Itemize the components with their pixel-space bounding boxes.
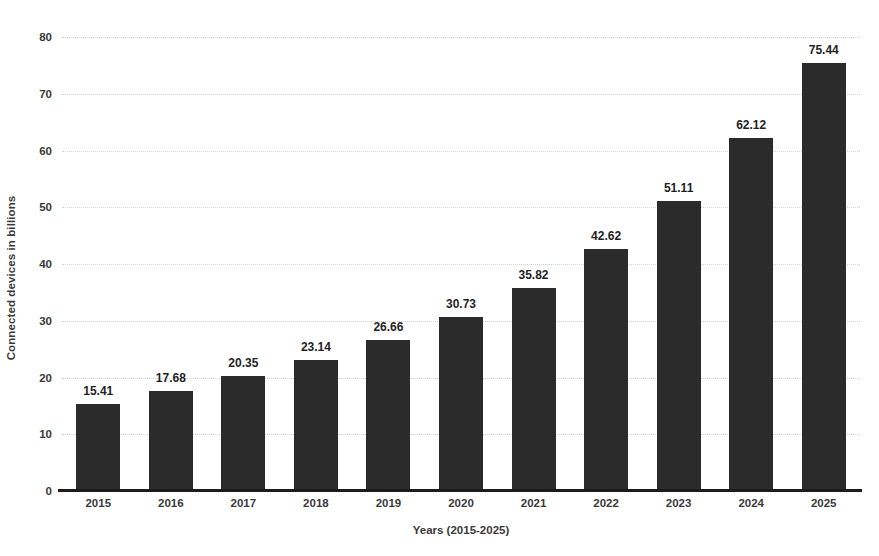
bar-group: 23.14 [294, 37, 338, 491]
bar-group: 42.62 [584, 37, 628, 491]
bar-group: 26.66 [366, 37, 410, 491]
y-axis-title: Connected devices in billions [0, 0, 22, 556]
bar-chart: Connected devices in billions 0102030405… [0, 0, 879, 556]
x-axis-title: Years (2015-2025) [62, 524, 860, 536]
bar[interactable] [76, 404, 120, 491]
bar-value-label: 15.41 [62, 384, 134, 398]
bar-value-label: 17.68 [135, 371, 207, 385]
bar-group: 17.68 [149, 37, 193, 491]
x-axis-tick-label: 2021 [498, 497, 570, 509]
x-axis-tick-label: 2020 [425, 497, 497, 509]
bar[interactable] [294, 360, 338, 491]
bar[interactable] [802, 63, 846, 491]
x-axis-tick-label: 2017 [207, 497, 279, 509]
bar-group: 51.11 [657, 37, 701, 491]
bar[interactable] [512, 288, 556, 491]
bar-value-label: 75.44 [788, 43, 860, 57]
bar-value-label: 42.62 [570, 229, 642, 243]
bar-group: 62.12 [729, 37, 773, 491]
bar[interactable] [149, 391, 193, 491]
bar-group: 35.82 [512, 37, 556, 491]
bar-value-label: 20.35 [207, 356, 279, 370]
bar[interactable] [366, 340, 410, 491]
x-axis-tick-labels: 2015201620172018201920202021202220232024… [62, 497, 860, 517]
bar-group: 30.73 [439, 37, 483, 491]
bar[interactable] [584, 249, 628, 491]
bar-value-label: 51.11 [643, 181, 715, 195]
x-axis-tick-label: 2023 [643, 497, 715, 509]
x-axis-tick-label: 2025 [788, 497, 860, 509]
bar-group: 75.44 [802, 37, 846, 491]
bar-group: 15.41 [76, 37, 120, 491]
bar[interactable] [657, 201, 701, 491]
x-axis-tick-label: 2018 [280, 497, 352, 509]
bar-value-label: 30.73 [425, 297, 497, 311]
x-axis-tick-label: 2019 [352, 497, 424, 509]
plot-area: 15.4117.6820.3523.1426.6630.7335.8242.62… [62, 37, 860, 491]
x-axis-tick-label: 2024 [715, 497, 787, 509]
x-axis-tick-label: 2016 [135, 497, 207, 509]
bar-value-label: 35.82 [498, 268, 570, 282]
x-axis-line [58, 489, 862, 492]
bar-value-label: 23.14 [280, 340, 352, 354]
bar[interactable] [439, 317, 483, 491]
bar-value-label: 26.66 [352, 320, 424, 334]
bar-group: 20.35 [221, 37, 265, 491]
bar-value-label: 62.12 [715, 118, 787, 132]
x-axis-tick-label: 2015 [62, 497, 134, 509]
x-axis-tick-label: 2022 [570, 497, 642, 509]
bar[interactable] [221, 376, 265, 491]
bar[interactable] [729, 138, 773, 491]
